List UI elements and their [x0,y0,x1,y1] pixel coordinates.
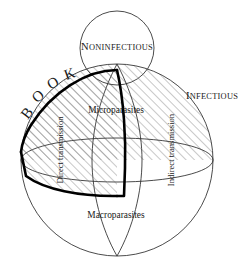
label-noninfectious-cap: N [81,41,89,52]
label-indirect-transmission: Indirect transmission [166,113,176,186]
label-direct-transmission: Direct transmission [55,116,65,184]
label-macroparasites: Macroparasites [87,210,145,220]
label-microparasites: Microparasites [88,105,144,115]
wedge-group [0,0,250,268]
label-infectious-rest: NFECTIOUS [190,92,238,101]
sphere-diagram: NONINFECTIOUS INFECTIOUS B O O K Micropa… [0,0,250,268]
label-noninfectious: NONINFECTIOUS [81,41,153,52]
label-infectious: INFECTIOUS [186,90,238,101]
diagram-canvas: NONINFECTIOUS INFECTIOUS B O O K Micropa… [0,0,250,268]
label-noninfectious-rest: ONINFECTIOUS [89,43,153,52]
